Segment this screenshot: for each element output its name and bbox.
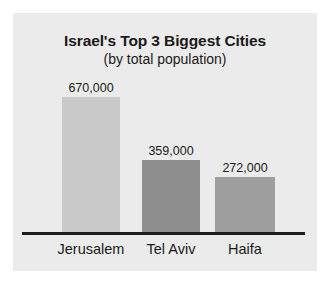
bar-value-label: 670,000 — [40, 81, 142, 95]
bar[interactable] — [62, 97, 120, 232]
x-axis-line — [22, 232, 305, 235]
category-label-haifa: Haifa — [191, 241, 299, 257]
plot-area: 670,000 359,000 272,000 — [13, 13, 317, 271]
chart-panel: Israel's Top 3 Biggest Cities (by total … — [13, 13, 317, 271]
bar[interactable] — [142, 160, 200, 232]
bar[interactable] — [215, 177, 275, 232]
bar-value-label: 359,000 — [120, 144, 222, 158]
bar-group: 359,000 — [142, 160, 200, 232]
bar-group: 670,000 — [62, 97, 120, 232]
chart-figure: Israel's Top 3 Biggest Cities (by total … — [0, 0, 330, 284]
bar-group: 272,000 — [215, 177, 275, 232]
bar-value-label: 272,000 — [193, 161, 297, 175]
category-axis: Jerusalem Tel Aviv Haifa — [13, 241, 317, 267]
